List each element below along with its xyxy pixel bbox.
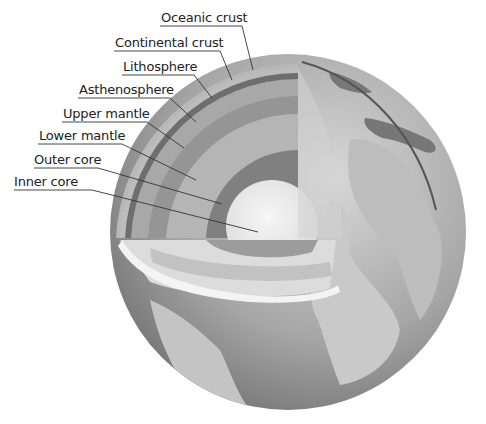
label-inner-core: Inner core bbox=[14, 175, 78, 189]
label-outer-core: Outer core bbox=[34, 153, 101, 167]
label-lithosphere: Lithosphere bbox=[123, 60, 197, 74]
label-asthenosphere: Asthenosphere bbox=[79, 83, 174, 97]
label-upper-mantle: Upper mantle bbox=[63, 107, 150, 121]
label-lower-mantle: Lower mantle bbox=[39, 129, 125, 143]
earth-layers-diagram bbox=[0, 0, 486, 424]
label-continental-crust: Continental crust bbox=[115, 36, 223, 50]
label-oceanic-crust: Oceanic crust bbox=[161, 11, 247, 25]
